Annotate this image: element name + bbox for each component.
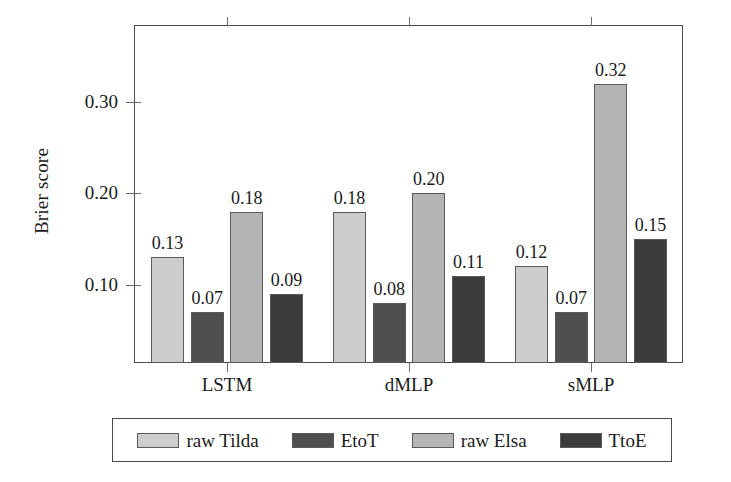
legend-item: raw Elsa xyxy=(412,431,527,450)
bar xyxy=(634,239,667,363)
legend-item: EtoT xyxy=(292,431,379,450)
legend-swatch xyxy=(292,433,334,448)
bar-value-label: 0.13 xyxy=(133,234,203,252)
bar-value-label: 0.09 xyxy=(252,271,322,289)
legend-label: raw Elsa xyxy=(461,431,527,450)
legend-label: EtoT xyxy=(341,431,379,450)
legend-label: raw Tilda xyxy=(186,431,258,450)
bar-value-label: 0.32 xyxy=(576,61,646,79)
bar xyxy=(151,257,184,363)
x-tick-label: dMLP xyxy=(339,374,479,396)
bar xyxy=(270,294,303,363)
y-tick-label: 0.10 xyxy=(28,275,118,294)
bar xyxy=(515,266,548,363)
legend-swatch xyxy=(560,433,602,448)
bar-value-label: 0.11 xyxy=(434,253,504,271)
legend-item: raw Tilda xyxy=(137,431,258,450)
x-tick-mark xyxy=(409,363,410,372)
bar-chart-figure: Brier score 0.300.200.10 LSTMdMLPsMLP 0.… xyxy=(0,0,731,482)
x-tick-label: LSTM xyxy=(157,374,297,396)
y-tick-label: 0.20 xyxy=(28,183,118,202)
x-tick-mark xyxy=(591,363,592,372)
legend-swatch xyxy=(412,433,454,448)
bar xyxy=(373,303,406,363)
y-tick-mark-inner xyxy=(134,285,141,286)
x-tick-mark xyxy=(227,363,228,372)
legend-swatch xyxy=(137,433,179,448)
y-tick-mark-inner xyxy=(134,193,141,194)
bar-value-label: 0.20 xyxy=(394,170,464,188)
bar xyxy=(191,312,224,363)
bar-value-label: 0.15 xyxy=(616,216,686,234)
bar-value-label: 0.12 xyxy=(497,243,567,261)
chart-legend: raw TildaEtoTraw ElsaTtoE xyxy=(112,418,672,462)
x-tick-mark-top xyxy=(409,17,410,26)
y-tick-mark-inner xyxy=(134,102,141,103)
x-tick-mark-top xyxy=(591,17,592,26)
bar-value-label: 0.18 xyxy=(212,189,282,207)
x-tick-mark-top xyxy=(227,17,228,26)
x-tick-label: sMLP xyxy=(521,374,661,396)
y-tick-label: 0.30 xyxy=(28,92,118,111)
bar xyxy=(452,276,485,363)
bar xyxy=(412,193,445,363)
bar-value-label: 0.18 xyxy=(315,189,385,207)
legend-item: TtoE xyxy=(560,431,647,450)
legend-label: TtoE xyxy=(609,431,647,450)
bar xyxy=(555,312,588,363)
